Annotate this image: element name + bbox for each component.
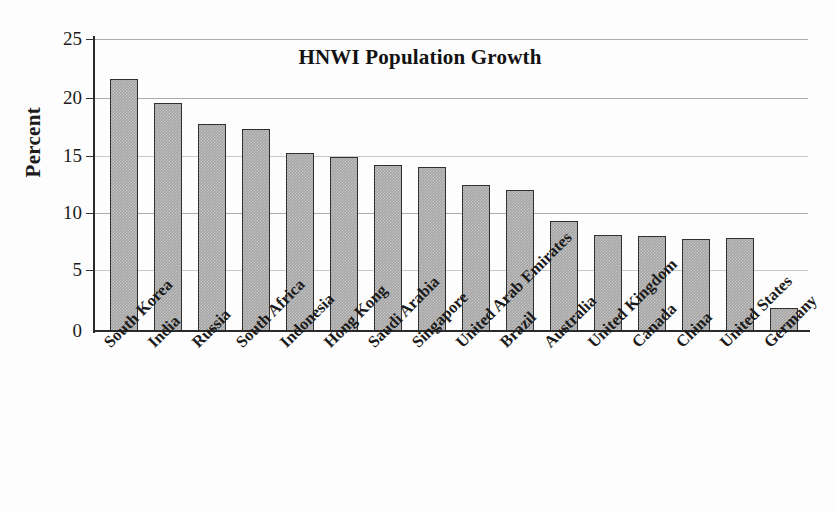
y-tick-label-0: 0 (44, 321, 82, 340)
chart-container: 25 20 15 10 5 0 Percent HNWI Population … (0, 0, 835, 512)
bar-russia (198, 124, 226, 331)
y-tick-label-20: 20 (44, 88, 82, 107)
y-tick-label-10: 10 (44, 203, 82, 222)
y-axis-title: Percent (21, 138, 46, 178)
bar-south-korea (110, 79, 138, 331)
gridline-25 (95, 39, 808, 40)
chart-title: HNWI Population Growth (210, 45, 630, 70)
bar-south-africa (242, 129, 270, 331)
plot-area (95, 39, 808, 331)
y-tick-20 (86, 98, 93, 99)
y-tick-5 (86, 270, 93, 271)
y-tick-label-5: 5 (44, 260, 82, 279)
y-tick-25 (86, 39, 93, 40)
gridline-20 (95, 98, 808, 99)
y-tick-10 (86, 213, 93, 214)
y-tick-label-15: 15 (44, 146, 82, 165)
y-tick-15 (86, 156, 93, 157)
y-tick-label-25: 25 (44, 29, 82, 48)
y-axis-line (93, 36, 95, 333)
